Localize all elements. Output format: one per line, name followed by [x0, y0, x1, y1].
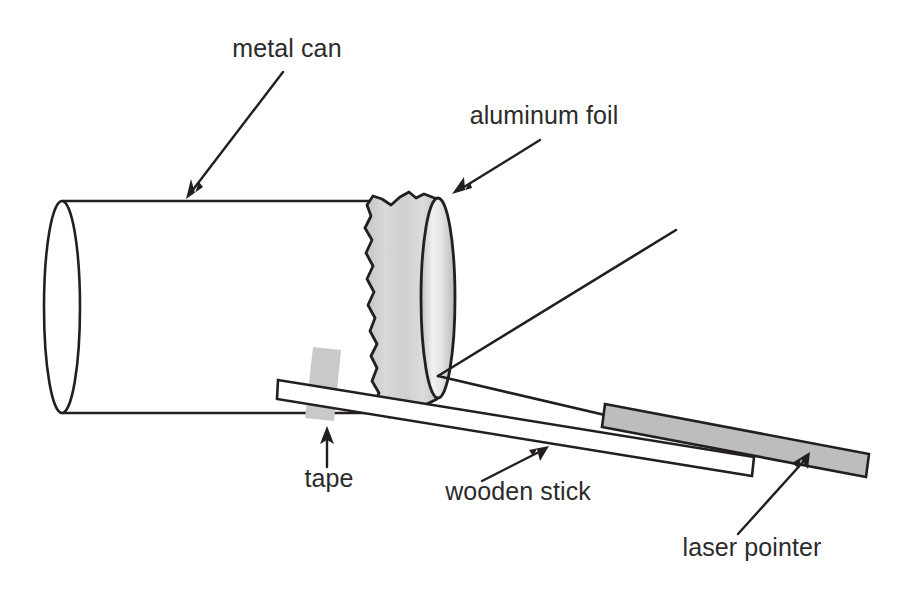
- aluminum-foil: [365, 192, 455, 417]
- metal-can-label: metal can: [232, 34, 341, 62]
- aluminum-foil-annotation: aluminum foil: [452, 101, 618, 194]
- can-open-end-ellipse: [44, 201, 80, 413]
- wooden-stick-annotation: wooden stick: [444, 446, 591, 505]
- wooden-stick-arrow-head: [529, 446, 549, 461]
- wooden-stick-label: wooden stick: [444, 477, 591, 505]
- diagram-illustration: metal can aluminum foil tape wooden stic…: [0, 0, 914, 602]
- metal-can-annotation: metal can: [186, 34, 342, 199]
- tape-label: tape: [304, 464, 353, 492]
- laser-beam-reflected-ray: [438, 230, 676, 376]
- tape-annotation: tape: [304, 426, 353, 492]
- diagram-canvas: metal can aluminum foil tape wooden stic…: [0, 0, 914, 602]
- aluminum-foil-leader-line: [464, 140, 540, 187]
- laser-pointer-label: laser pointer: [683, 533, 822, 561]
- aluminum-foil-arrow-head: [452, 177, 472, 194]
- metal-can-leader-line: [192, 72, 283, 191]
- aluminum-foil-label: aluminum foil: [470, 101, 619, 129]
- metal-can: [44, 201, 390, 413]
